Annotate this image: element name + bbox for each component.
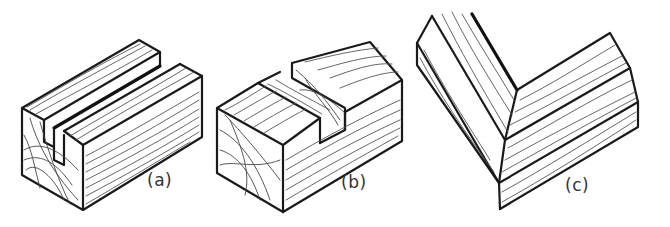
figure-b-housed-block bbox=[217, 42, 402, 212]
figure-c-rebated-corner bbox=[417, 12, 638, 209]
label-b: (b) bbox=[341, 172, 367, 192]
figure-a-grooved-block bbox=[22, 40, 202, 210]
label-c: (c) bbox=[565, 175, 589, 195]
label-a: (a) bbox=[147, 170, 172, 190]
